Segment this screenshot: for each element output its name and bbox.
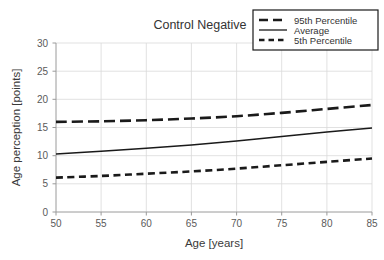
y-tick-label-5: 5 — [42, 178, 48, 189]
y-tick-label-25: 25 — [37, 66, 49, 77]
x-axis-ticks — [56, 212, 372, 216]
x-tick-label-70: 70 — [231, 218, 243, 229]
chart-container: 30 25 20 15 10 5 0 50 55 60 65 70 75 80 … — [0, 0, 384, 260]
x-tick-label-50: 50 — [50, 218, 62, 229]
x-tick-label-80: 80 — [321, 218, 333, 229]
x-tick-label-85: 85 — [366, 218, 378, 229]
x-tick-label-75: 75 — [276, 218, 288, 229]
x-tick-label-60: 60 — [141, 218, 153, 229]
legend-label-5th-percentile: 5th Percentile — [294, 35, 352, 46]
x-axis-title: Age [years] — [185, 237, 243, 249]
y-axis-ticks — [53, 43, 57, 212]
y-axis-title: Age perception [points] — [10, 69, 22, 187]
chart-title: Control Negative — [153, 18, 246, 32]
y-tick-label-15: 15 — [37, 122, 49, 133]
x-tick-label-55: 55 — [96, 218, 108, 229]
y-tick-label-30: 30 — [37, 38, 49, 49]
y-tick-label-10: 10 — [37, 150, 49, 161]
x-tick-label-65: 65 — [186, 218, 198, 229]
y-tick-label-20: 20 — [37, 94, 49, 105]
y-tick-label-0: 0 — [42, 207, 48, 218]
chart-legend: 95th Percentile Average 5th Percentile — [253, 10, 378, 50]
age-perception-line-chart: 30 25 20 15 10 5 0 50 55 60 65 70 75 80 … — [0, 0, 384, 260]
